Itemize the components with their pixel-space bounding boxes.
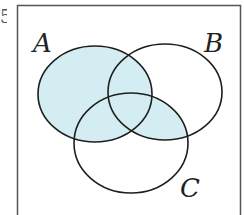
set-b-label: B: [204, 30, 223, 56]
venn-diagram: 5 A B C: [0, 0, 244, 215]
set-a-label: A: [33, 30, 52, 56]
set-c-label: C: [180, 175, 200, 201]
